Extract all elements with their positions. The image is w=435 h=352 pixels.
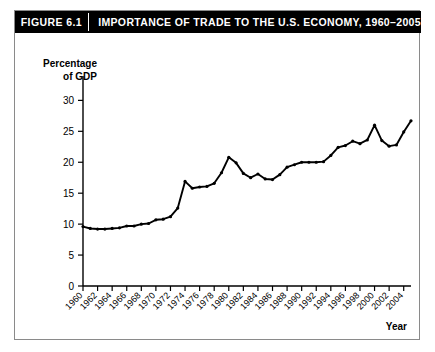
svg-text:10: 10 (63, 219, 75, 230)
plot-region: Percentage of GDP 051015202530 196019621… (15, 33, 421, 340)
svg-text:30: 30 (63, 95, 75, 106)
y-axis-ticks: 051015202530 (63, 95, 83, 292)
svg-text:5: 5 (68, 250, 74, 261)
figure-number-label: FIGURE 6.1 (15, 11, 88, 33)
figure-header-bar: FIGURE 6.1 IMPORTANCE OF TRADE TO THE U.… (15, 11, 421, 33)
figure-card: FIGURE 6.1 IMPORTANCE OF TRADE TO THE U.… (14, 10, 420, 340)
trade-gdp-line-chart: 051015202530 196019621964196619681970197… (15, 33, 421, 340)
svg-text:2004: 2004 (384, 290, 405, 311)
svg-text:20: 20 (63, 157, 75, 168)
x-axis-ticks: 1960196219641966196819701972197419761978… (63, 286, 405, 312)
svg-text:25: 25 (63, 126, 75, 137)
svg-text:0: 0 (68, 281, 74, 292)
svg-text:15: 15 (63, 188, 75, 199)
figure-title-label: IMPORTANCE OF TRADE TO THE U.S. ECONOMY,… (89, 11, 421, 33)
data-series-line (83, 121, 411, 229)
x-axis-title: Year (386, 321, 407, 332)
